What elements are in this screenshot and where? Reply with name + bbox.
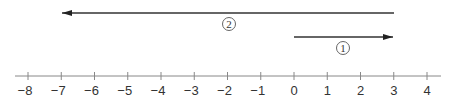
tick-label: 1 (324, 83, 331, 98)
tick-label: −3 (184, 83, 199, 98)
tick-label: −5 (117, 83, 132, 98)
arrow-1-label: 1 (340, 42, 346, 54)
arrow-1: 1 (294, 37, 393, 55)
tick-label: −6 (84, 83, 99, 98)
tick-label: 0 (290, 83, 297, 98)
tick-label: −8 (18, 83, 33, 98)
tick-label: 3 (390, 83, 397, 98)
arrow-2: 2 (62, 13, 394, 31)
tick-label: 2 (357, 83, 364, 98)
tick-label: −4 (151, 83, 166, 98)
tick-label: 4 (423, 83, 430, 98)
number-line-axis: −8−7−6−5−4−3−2−101234 (15, 72, 441, 98)
tick-label: −1 (250, 83, 265, 98)
number-line-diagram: 2 1 −8−7−6−5−4−3−2−101234 (0, 0, 449, 99)
tick-label: −2 (217, 83, 232, 98)
tick-label: −7 (51, 83, 66, 98)
arrow-2-label: 2 (226, 18, 232, 30)
